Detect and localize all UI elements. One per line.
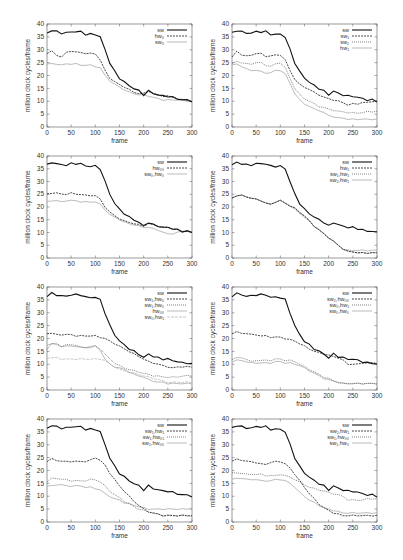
x-tick-label: 250 [347, 392, 358, 399]
y-tick-label: 40 [222, 152, 230, 159]
x-axis-label: frame [296, 137, 313, 144]
y-tick-label: 20 [37, 72, 45, 79]
y-tick-label: 10 [37, 97, 45, 104]
plot-frame [232, 287, 377, 390]
y-tick-label: 25 [37, 190, 45, 197]
y-tick-label: 30 [222, 441, 230, 448]
legend: swsw₁,hw₁sw₁,hw₀₀sw₁,hw₀ [327, 422, 372, 446]
y-tick-label: 25 [222, 454, 230, 461]
y-tick-label: 35 [222, 296, 230, 303]
x-tick-label: 0 [45, 260, 49, 267]
y-tick-label: 15 [222, 480, 230, 487]
y-tick-label: 0 [225, 518, 229, 525]
y-tick-label: 35 [222, 165, 230, 172]
y-tick-label: 0 [40, 518, 44, 525]
legend: swhw₀sw₀ [155, 27, 187, 45]
series-line [47, 293, 192, 364]
x-tick-label: 300 [187, 129, 198, 136]
y-axis-label: million clock cycles/frame [209, 433, 217, 507]
chart-panel-6: 0501001502002503000510152025303540framem… [209, 283, 383, 407]
x-axis-label: frame [296, 532, 313, 539]
x-axis-label: frame [111, 268, 128, 275]
y-tick-label: 10 [37, 492, 45, 499]
legend: swhw₁sw₁,hw₁sw₂,hw₁ [330, 159, 372, 183]
x-tick-label: 50 [253, 260, 261, 267]
y-axis-label: million clock cycles/frame [209, 38, 217, 112]
y-tick-label: 35 [37, 165, 45, 172]
legend-label: sw₀,hw₀ [144, 171, 164, 177]
series-line [47, 485, 192, 510]
plot-frame [47, 156, 192, 258]
y-tick-label: 20 [222, 203, 230, 210]
y-tick-label: 20 [37, 335, 45, 342]
x-tick-label: 100 [90, 392, 101, 399]
y-tick-label: 35 [37, 428, 45, 435]
x-tick-label: 200 [138, 260, 149, 267]
legend: swsw₁,hw₀sw₁,hw₀hw₀₀sw₀,hw₁ [145, 290, 187, 320]
series-line [232, 31, 377, 102]
x-tick-label: 200 [323, 129, 334, 136]
y-axis-label: million clock cycles/frame [24, 433, 32, 507]
x-tick-label: 300 [187, 524, 198, 531]
y-tick-label: 25 [37, 454, 45, 461]
y-tick-label: 5 [225, 110, 229, 117]
x-tick-label: 100 [275, 524, 286, 531]
y-tick-label: 30 [222, 178, 230, 185]
x-tick-label: 150 [299, 260, 310, 267]
plot-frame [47, 287, 192, 390]
series-line [47, 63, 192, 101]
chart-panel-3: 0501001502002503000510152025303540framem… [24, 152, 198, 275]
y-tick-label: 0 [225, 254, 229, 261]
x-tick-label: 200 [138, 524, 149, 531]
chart-panel-8: 0501001502002503000510152025303540framem… [209, 415, 383, 539]
series-line [47, 51, 192, 102]
y-tick-label: 35 [37, 33, 45, 40]
x-axis-label: frame [111, 532, 128, 539]
x-tick-label: 250 [347, 129, 358, 136]
series-line [232, 195, 377, 253]
legend-label: sw₂,hw₁ [330, 177, 349, 183]
legend-label: sw₁,hw₀ [330, 440, 349, 446]
y-tick-label: 40 [37, 283, 45, 290]
legend-label: sw₀,hw₀ [329, 308, 349, 314]
x-tick-label: 300 [372, 524, 383, 531]
x-tick-label: 100 [90, 524, 101, 531]
x-tick-label: 250 [347, 524, 358, 531]
y-tick-label: 35 [37, 296, 45, 303]
x-tick-label: 200 [323, 392, 334, 399]
plot-frame [47, 419, 192, 522]
x-axis-label: frame [296, 268, 313, 275]
legend: swsw₁sw₂hw₁ [340, 27, 372, 51]
y-tick-label: 10 [222, 492, 230, 499]
y-tick-label: 5 [225, 373, 229, 380]
y-axis-label: million clock cycles/frame [209, 301, 217, 375]
series-line [47, 193, 192, 232]
y-tick-label: 0 [225, 123, 229, 130]
y-tick-label: 30 [37, 46, 45, 53]
x-tick-label: 50 [253, 524, 261, 531]
x-axis-label: frame [296, 400, 313, 407]
x-tick-label: 50 [68, 392, 76, 399]
series-line [47, 333, 192, 367]
x-tick-label: 300 [372, 260, 383, 267]
legend: swsw₂,hw₀₀sw₀,hw₁sw₀,hw₀ [327, 290, 372, 314]
x-axis-label: frame [111, 400, 128, 407]
y-tick-label: 5 [40, 110, 44, 117]
series-line [232, 195, 377, 253]
y-tick-label: 40 [222, 283, 230, 290]
y-tick-label: 35 [222, 33, 230, 40]
x-tick-label: 0 [230, 260, 234, 267]
y-tick-label: 25 [222, 190, 230, 197]
y-tick-label: 10 [37, 229, 45, 236]
series-line [232, 478, 377, 513]
y-tick-label: 0 [40, 254, 44, 261]
chart-panel-4: 0501001502002503000510152025303540framem… [209, 152, 383, 275]
y-axis-label: million clock cycles/frame [24, 38, 32, 112]
y-tick-label: 30 [37, 309, 45, 316]
y-tick-label: 30 [222, 46, 230, 53]
y-tick-label: 25 [222, 322, 230, 329]
series-line [47, 31, 192, 102]
plot-frame [232, 419, 377, 522]
y-axis-label: million clock cycles/frame [209, 170, 217, 244]
y-tick-label: 15 [37, 348, 45, 355]
